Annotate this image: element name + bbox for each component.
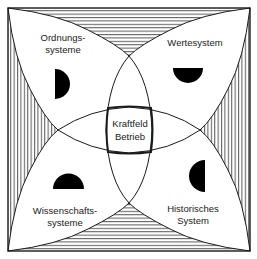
- center-label: Kraftfeld Betrieb: [108, 117, 152, 143]
- quadrant-label-top-left: Ordnungs- systeme: [28, 32, 98, 56]
- label-line: Kraftfeld: [108, 117, 152, 130]
- label-line: systeme: [25, 217, 105, 229]
- label-line: System: [158, 215, 228, 227]
- quadrant-label-bottom-left: Wissenschafts- systeme: [25, 205, 105, 229]
- half-disc-icon-bottom-left: [53, 174, 84, 189]
- label-line: systeme: [28, 44, 98, 56]
- label-line: Wissenschafts-: [25, 205, 105, 217]
- label-line: Wertesystem: [160, 37, 230, 49]
- half-disc-icon-bottom-right: [189, 160, 205, 192]
- label-line: Historisches: [158, 203, 228, 215]
- label-line: Betrieb: [108, 130, 152, 143]
- half-disc-icon-top-left: [55, 69, 70, 99]
- label-line: Ordnungs-: [28, 32, 98, 44]
- half-disc-icon-top-right: [173, 68, 203, 83]
- quadrant-label-top-right: Wertesystem: [160, 37, 230, 49]
- quadrant-label-bottom-right: Historisches System: [158, 203, 228, 227]
